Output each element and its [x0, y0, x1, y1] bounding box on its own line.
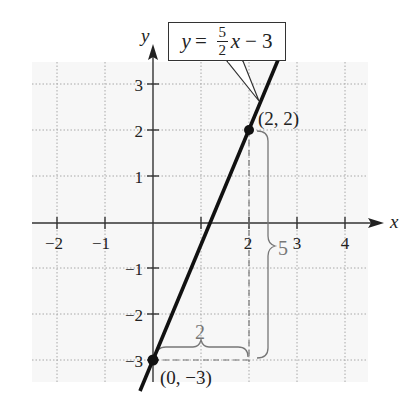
y-tick-label: 3	[135, 77, 144, 94]
y-tick-label: −1	[125, 261, 143, 278]
y-axis-label: y	[141, 26, 149, 45]
x-tick-label: 4	[341, 235, 350, 252]
equation-fraction: 5 2	[217, 25, 228, 58]
x-tick-label: 3	[293, 235, 302, 252]
rise-label: 5	[278, 238, 288, 258]
fraction-denominator: 2	[219, 43, 227, 58]
point-2-2	[244, 125, 254, 135]
x-tick-label: −2	[45, 235, 63, 252]
run-label: 2	[195, 322, 205, 342]
y-tick-label: −2	[125, 307, 143, 324]
point-label-0-neg3: (0, −3)	[160, 368, 212, 387]
equation-constant: 3	[262, 29, 273, 54]
fraction-numerator: 5	[219, 25, 227, 40]
equation-lhs: y	[182, 29, 191, 54]
equation-operator: −	[245, 29, 257, 54]
y-tick-label: −3	[125, 353, 143, 370]
point-0-neg3	[148, 355, 159, 366]
equation-label-box: y = 5 2 x − 3	[168, 22, 286, 61]
point-label-2-2: (2, 2)	[258, 109, 299, 128]
x-tick-label: 2	[244, 235, 253, 252]
x-axis-label: x	[390, 212, 398, 231]
equation-equals: =	[195, 29, 207, 54]
x-tick-label: −1	[92, 235, 110, 252]
y-tick-label: 1	[135, 169, 144, 186]
equation-variable: x	[231, 29, 240, 54]
y-tick-label: 2	[135, 123, 144, 140]
